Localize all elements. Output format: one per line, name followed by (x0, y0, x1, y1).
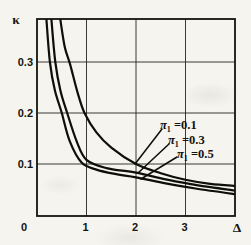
origin-tick-0: 0 (21, 221, 27, 233)
plot-svg: κ Δ 0.3 0.2 0.1 0 1 2 3 π1 =0.1 π1 =0.3 … (0, 0, 251, 245)
x-tick-2: 2 (132, 221, 138, 233)
legend-label-pi1-0.5: π1 =0.5 (177, 147, 214, 163)
curves (46, 19, 235, 194)
y-tick-0.2: 0.2 (18, 107, 33, 119)
chart-figure: κ Δ 0.3 0.2 0.1 0 1 2 3 π1 =0.1 π1 =0.3 … (0, 0, 251, 245)
leader-line-2 (138, 144, 169, 173)
curve-pi1-0.5 (46, 19, 235, 194)
leader-line-1 (135, 129, 162, 164)
curve-pi1-0.3 (51, 19, 235, 190)
x-tick-3: 3 (181, 221, 187, 233)
x-axis-label-delta: Δ (233, 220, 242, 235)
legend-label-pi1-0.1: π1 =0.1 (160, 118, 197, 134)
x-tick-1: 1 (82, 221, 88, 233)
y-axis-label-kappa: κ (12, 12, 20, 27)
y-tick-0.3: 0.3 (18, 56, 33, 68)
y-tick-0.1: 0.1 (18, 158, 33, 170)
